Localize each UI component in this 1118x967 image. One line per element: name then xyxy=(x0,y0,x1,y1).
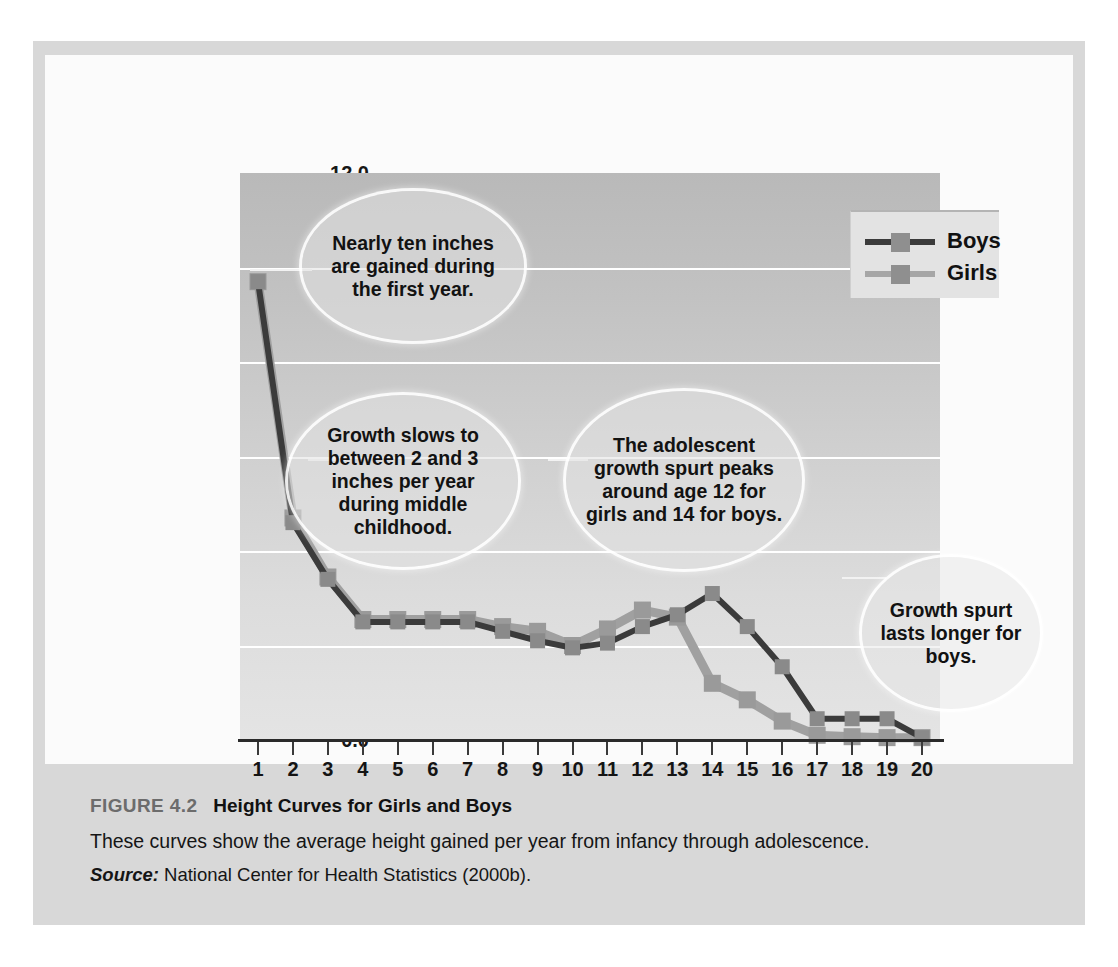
x-tick-mark xyxy=(886,742,888,755)
x-tick-mark xyxy=(851,742,853,755)
x-tick-mark xyxy=(781,742,783,755)
data-point-marker xyxy=(599,620,616,637)
callout-adolescent-spurt: The adolescent growth spurt peaks around… xyxy=(566,391,802,569)
callout-text: The adolescent growth spurt peaks around… xyxy=(566,434,802,526)
data-point-marker xyxy=(774,713,791,730)
figure-description: These curves show the average height gai… xyxy=(90,830,1050,853)
data-point-marker xyxy=(740,619,755,634)
callout-first-year: Nearly ten inches are gained during the … xyxy=(302,191,524,341)
data-point-marker xyxy=(775,659,790,674)
x-tick-mark xyxy=(606,742,608,755)
source-text: National Center for Health Statistics (2… xyxy=(164,864,531,885)
legend-item-boys: Boys xyxy=(865,226,1001,256)
source-label: Source: xyxy=(90,864,159,885)
callout-boys-longer: Growth spurt lasts longer for boys. xyxy=(862,557,1040,709)
x-tick-mark xyxy=(397,742,399,755)
x-tick-mark xyxy=(676,742,678,755)
chart-panel: Average gain (inches) per year 12.0 10.0… xyxy=(45,55,1073,764)
legend-label-girls: Girls xyxy=(947,260,997,286)
legend-swatch-boys-icon xyxy=(865,237,935,246)
x-tick-mark xyxy=(502,742,504,755)
legend-label-boys: Boys xyxy=(947,228,1001,254)
x-tick-mark xyxy=(467,742,469,755)
x-tick-mark xyxy=(292,742,294,755)
x-axis-line xyxy=(238,739,944,742)
data-point-marker xyxy=(495,624,510,639)
data-point-marker xyxy=(739,691,756,708)
x-tick-mark xyxy=(711,742,713,755)
legend-swatch-girls-icon xyxy=(865,269,935,278)
figure-card: Average gain (inches) per year 12.0 10.0… xyxy=(33,41,1085,925)
data-point-marker xyxy=(670,607,685,622)
data-point-marker xyxy=(460,614,475,629)
callout-text: Growth slows to between 2 and 3 inches p… xyxy=(288,424,518,539)
data-point-marker xyxy=(251,274,266,289)
legend-item-girls: Girls xyxy=(865,258,997,288)
x-tick-mark xyxy=(641,742,643,755)
data-point-marker xyxy=(635,619,650,634)
figure-title: Height Curves for Girls and Boys xyxy=(213,795,512,816)
data-point-marker xyxy=(320,572,335,587)
leader-line-boys-longer xyxy=(842,577,886,579)
callout-text: Nearly ten inches are gained during the … xyxy=(302,232,524,301)
data-point-marker xyxy=(880,711,895,726)
x-tick-mark xyxy=(572,742,574,755)
x-tick-mark xyxy=(746,742,748,755)
x-tick-mark xyxy=(362,742,364,755)
data-point-marker xyxy=(565,640,580,655)
caption-title-line: FIGURE 4.2 Height Curves for Girls and B… xyxy=(90,795,1050,817)
callout-middle-childhood: Growth slows to between 2 and 3 inches p… xyxy=(288,395,518,567)
figure-source-line: Source: National Center for Health Stati… xyxy=(90,864,1050,886)
plot-area: Nearly ten inches are gained during the … xyxy=(240,173,940,740)
x-tick-mark xyxy=(327,742,329,755)
data-point-marker xyxy=(704,675,721,692)
x-tick-mark xyxy=(537,742,539,755)
x-tick-mark xyxy=(816,742,818,755)
data-point-marker xyxy=(845,711,860,726)
x-tick-label: 20 xyxy=(902,758,942,781)
data-point-marker xyxy=(810,711,825,726)
x-tick-mark xyxy=(257,742,259,755)
data-point-marker xyxy=(634,602,651,619)
data-point-marker xyxy=(530,633,545,648)
figure-caption: FIGURE 4.2 Height Curves for Girls and B… xyxy=(90,795,1050,886)
data-point-marker xyxy=(600,636,615,651)
data-point-marker xyxy=(390,614,405,629)
data-point-marker xyxy=(425,614,440,629)
figure-number: FIGURE 4.2 xyxy=(90,795,197,816)
x-tick-mark xyxy=(921,742,923,755)
data-point-marker xyxy=(705,586,720,601)
x-tick-mark xyxy=(432,742,434,755)
callout-text: Growth spurt lasts longer for boys. xyxy=(862,599,1040,668)
data-point-marker xyxy=(355,614,370,629)
chart-legend: Boys Girls xyxy=(850,210,999,298)
